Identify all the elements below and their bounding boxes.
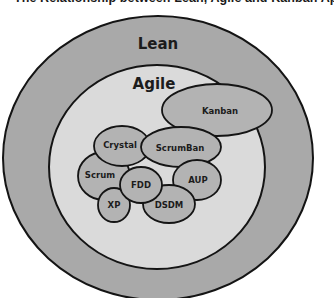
agile-label: Agile — [133, 75, 176, 93]
aup-label: AUP — [188, 175, 207, 185]
lean-label: Lean — [138, 35, 179, 53]
crystal-label: Crystal — [103, 140, 137, 150]
fdd-node: FDD — [120, 167, 162, 203]
fdd-label: FDD — [131, 180, 151, 190]
scrum-label: Scrum — [85, 170, 115, 180]
kanban-label: Kanban — [202, 106, 238, 116]
dsdm-label: DSDM — [155, 200, 184, 210]
scrumban-label: ScrumBan — [156, 143, 205, 153]
scrumban-node: ScrumBan — [141, 127, 221, 167]
xp-label: XP — [108, 200, 121, 210]
